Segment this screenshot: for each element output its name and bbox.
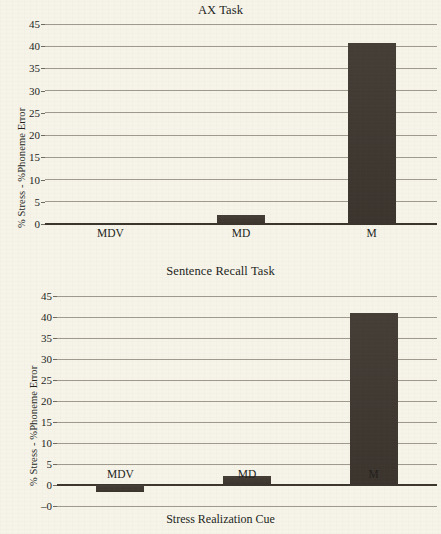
y-tick-mark: [41, 46, 45, 47]
y-tick-mark: [53, 506, 57, 507]
y-tick-mark: [53, 401, 57, 402]
y-tick-label: 30: [41, 353, 52, 365]
y-tick-label: 35: [29, 62, 40, 74]
y-axis-title-bottom: % Stress - %Phoneme Error: [28, 366, 39, 486]
y-tick-mark: [41, 202, 45, 203]
y-tick-mark: [41, 68, 45, 69]
y-tick-label: 45: [41, 290, 52, 302]
y-tick-mark: [41, 24, 45, 25]
gridline: [57, 296, 437, 297]
chart-ax-task: AX Task % Stress - %Phoneme Error 051015…: [0, 0, 441, 260]
y-tick-label: 15: [41, 416, 52, 428]
y-tick-label: 40: [41, 311, 52, 323]
y-tick-label: 45: [29, 18, 40, 30]
y-tick-mark: [41, 180, 45, 181]
y-tick-label: 10: [41, 437, 52, 449]
y-tick-label: 0: [47, 479, 53, 491]
y-tick-label: 5: [47, 458, 53, 470]
y-tick-label: 20: [41, 395, 52, 407]
y-tick-label: 35: [41, 332, 52, 344]
y-tick-mark: [53, 380, 57, 381]
y-tick-label: 10: [29, 174, 40, 186]
chart-sentence-recall-task: Sentence Recall Task % Stress - %Phoneme…: [0, 258, 441, 534]
bar-m: [350, 313, 398, 485]
y-tick-label: 40: [29, 40, 40, 52]
x-axis-title: Stress Realization Cue: [0, 512, 441, 527]
bar-md: [217, 215, 265, 224]
y-tick-mark: [53, 422, 57, 423]
x-tick-label-md: MD: [238, 468, 257, 480]
plot-area-sentence-recall-task: –0051015202530354045MDVMDM: [57, 296, 437, 506]
y-tick-label: 5: [35, 196, 41, 208]
x-tick-label-md: MD: [232, 227, 251, 239]
y-tick-mark: [53, 485, 57, 486]
y-tick-mark: [41, 224, 45, 225]
x-tick-label-mdv: MDV: [107, 468, 134, 480]
x-tick-label-m: M: [367, 227, 377, 239]
y-tick-mark: [53, 359, 57, 360]
y-tick-label: 25: [29, 107, 40, 119]
y-tick-label: –0: [41, 500, 52, 512]
y-tick-label: 30: [29, 85, 40, 97]
y-tick-mark: [53, 296, 57, 297]
y-tick-mark: [41, 157, 45, 158]
x-tick-label-m: M: [369, 468, 379, 480]
gridline: [57, 506, 437, 507]
y-tick-label: 20: [29, 129, 40, 141]
y-axis-title-top: % Stress - %Phoneme Error: [16, 108, 27, 228]
plot-area-ax-task: 051015202530354045MDVMDM: [45, 24, 437, 224]
y-tick-label: 25: [41, 374, 52, 386]
y-tick-mark: [41, 91, 45, 92]
chart-title-sentence-recall-task: Sentence Recall Task: [0, 264, 441, 279]
x-tick-label-mdv: MDV: [97, 227, 124, 239]
chart-title-ax-task: AX Task: [0, 3, 441, 18]
y-tick-mark: [41, 113, 45, 114]
bar-m: [348, 43, 396, 224]
y-tick-mark: [53, 464, 57, 465]
y-tick-mark: [53, 317, 57, 318]
y-tick-mark: [41, 135, 45, 136]
bar-mdv: [96, 485, 144, 492]
gridline: [45, 24, 437, 25]
y-tick-label: 0: [35, 218, 41, 230]
y-tick-mark: [53, 338, 57, 339]
y-tick-mark: [53, 443, 57, 444]
y-tick-label: 15: [29, 151, 40, 163]
figure-page: { "page": { "background_color": "#f6f3e9…: [0, 0, 441, 534]
